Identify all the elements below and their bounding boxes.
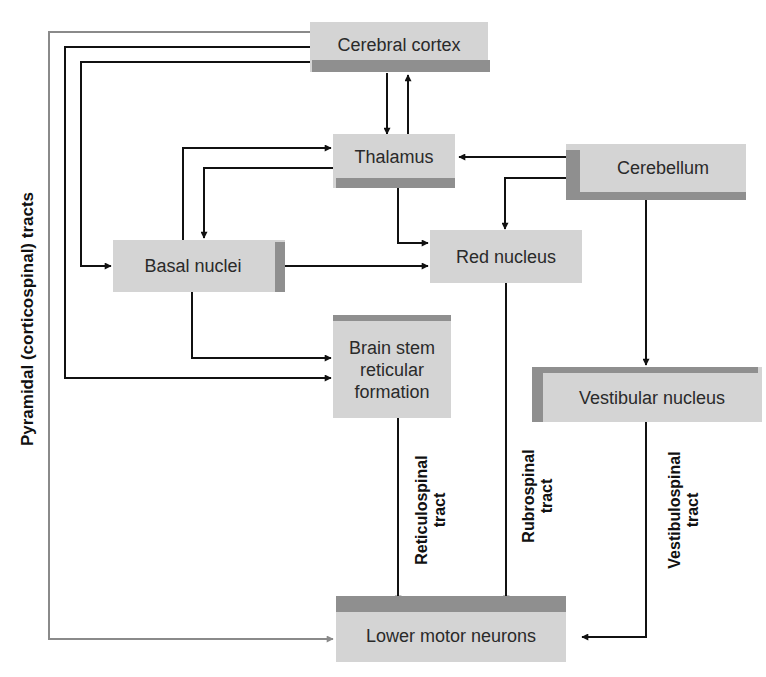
node-label: Cerebral cortex bbox=[337, 34, 460, 56]
reticulospinal-tract-label: Reticulospinal tract bbox=[413, 445, 449, 575]
node-label-line-2: reticular bbox=[360, 359, 424, 381]
thalamus-to-red-line bbox=[398, 188, 428, 243]
node-label: Red nucleus bbox=[456, 246, 556, 268]
cortex-to-brainstem-line bbox=[65, 47, 331, 378]
tract-label-line-1: Vestibulospinal bbox=[666, 440, 684, 580]
cerebellum-to-red-line bbox=[505, 178, 567, 229]
node-label-line-3: formation bbox=[354, 381, 429, 403]
node-red-nucleus: Red nucleus bbox=[430, 230, 582, 283]
node-brain-stem-reticular-formation: Brain stem reticular formation bbox=[333, 315, 451, 418]
node-vestibular-nucleus: Vestibular nucleus bbox=[532, 367, 762, 422]
tract-label-line-2: tract bbox=[538, 441, 556, 551]
pyramidal-tract-label: Pyramidal (corticospinal) tracts bbox=[19, 159, 37, 479]
rubrospinal-tract-label: Rubrospinal tract bbox=[520, 441, 556, 551]
node-lower-motor-neurons: Lower motor neurons bbox=[336, 596, 566, 662]
node-label: Lower motor neurons bbox=[366, 625, 536, 647]
node-label: Vestibular nucleus bbox=[579, 387, 725, 409]
motor-pathway-diagram: Cerebral cortex Thalamus Cerebellum Basa… bbox=[0, 0, 766, 677]
tract-label-text: Pyramidal (corticospinal) tracts bbox=[18, 192, 37, 446]
node-basal-nuclei: Basal nuclei bbox=[113, 240, 285, 292]
node-cerebellum: Cerebellum bbox=[566, 144, 746, 200]
tract-label-line-2: tract bbox=[684, 440, 702, 580]
basal-to-brainstem-line bbox=[192, 292, 331, 358]
cortex-to-basal-line bbox=[81, 62, 310, 266]
node-label-line-1: Brain stem bbox=[349, 337, 435, 359]
basal-to-thalamus-line bbox=[183, 148, 331, 240]
tract-label-line-1: Rubrospinal bbox=[520, 441, 538, 551]
node-label: Basal nuclei bbox=[144, 255, 241, 277]
vestibulospinal-tract-line bbox=[582, 422, 646, 637]
node-label: Cerebellum bbox=[617, 157, 709, 179]
vestibulospinal-tract-label: Vestibulospinal tract bbox=[666, 440, 702, 580]
node-label: Thalamus bbox=[354, 146, 433, 168]
tract-label-line-2: tract bbox=[431, 445, 449, 575]
tract-label-line-1: Reticulospinal bbox=[413, 445, 431, 575]
node-cerebral-cortex: Cerebral cortex bbox=[310, 22, 488, 72]
thalamus-to-basal-line bbox=[204, 168, 333, 238]
node-thalamus: Thalamus bbox=[333, 134, 455, 188]
